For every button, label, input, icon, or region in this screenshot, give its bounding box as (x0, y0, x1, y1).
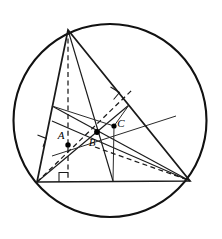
geometry-figure-container: A B C (0, 0, 222, 239)
geometry-diagram: A B C (0, 0, 222, 239)
point-a-dot (65, 142, 70, 147)
right-angle-base-foot (59, 173, 69, 183)
point-c-label: C (117, 117, 125, 129)
altitude-from-bottom-right (52, 121, 190, 181)
altitude-from-bottom-left (37, 90, 132, 182)
point-a-label: A (57, 129, 65, 141)
dashed-to-bottom-right (95, 147, 188, 180)
point-c-dot (111, 123, 116, 128)
median-from-apex (68, 30, 113, 181)
point-b-label: B (89, 136, 96, 148)
point-b-dot (94, 129, 100, 135)
